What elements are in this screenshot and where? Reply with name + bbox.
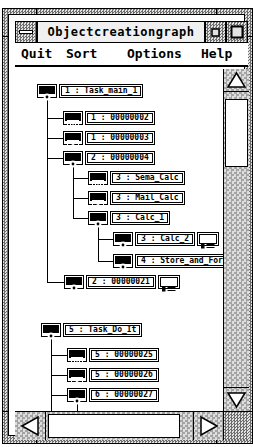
- task-icon: [37, 84, 57, 98]
- scroll-down-button[interactable]: [224, 387, 249, 412]
- node-label: 3 : Mail_Calc: [112, 193, 183, 203]
- tree-node-calc-2[interactable]: 3 : Calc_2: [113, 232, 219, 246]
- tree-connector: [98, 225, 99, 261]
- tree-node-00000027[interactable]: 6 : 00000027: [67, 388, 159, 402]
- tree-node-mail-calc[interactable]: 3 : Mail_Calc: [88, 191, 185, 205]
- node-label-box: 5 : Task_Do_It: [63, 323, 142, 337]
- node-label-box: 5 : 00000026: [89, 368, 159, 382]
- tree-connector: [73, 198, 88, 199]
- task-icon: [63, 151, 83, 165]
- node-label: 1 : 00000002: [87, 113, 153, 123]
- graph-viewport: 1 : Task_main_1 1 : 00000002 1 : 0000000…: [15, 69, 223, 411]
- tree-connector: [73, 218, 88, 219]
- tree-connector: [51, 355, 67, 356]
- menu-quit[interactable]: Quit: [21, 46, 52, 61]
- node-label-box: 3 : Calc_2: [135, 232, 195, 246]
- semaphore-icon: [63, 111, 83, 125]
- node-label-box: 2 : 00000021: [86, 275, 156, 289]
- app-window: Objectcreationgraph Quit Sort Options He…: [2, 8, 253, 444]
- tree-node-calc-1[interactable]: 3 : Calc_1: [88, 211, 170, 225]
- menu-bar: Quit Sort Options Help: [15, 43, 248, 67]
- node-label: 1 : Task_main_1: [61, 86, 141, 96]
- node-label-box: 4 : Store_and_Forwa: [135, 254, 223, 268]
- node-label: 4 : Store_and_Forwa: [137, 256, 223, 266]
- task-icon: [113, 254, 133, 268]
- scroll-right-button[interactable]: [193, 412, 224, 440]
- screen: Objectcreationgraph Quit Sort Options He…: [0, 0, 253, 447]
- minimize-button[interactable]: [205, 21, 226, 43]
- maximize-button[interactable]: [226, 21, 248, 43]
- tree-node-00000002[interactable]: 1 : 00000002: [63, 111, 155, 125]
- node-label-box: 1 : 00000003: [85, 131, 155, 145]
- tree-connector: [47, 282, 64, 283]
- window-inner-frame: Objectcreationgraph Quit Sort Options He…: [8, 14, 245, 436]
- horizontal-scrollbar[interactable]: [15, 411, 223, 440]
- tree-node-00000021[interactable]: 2 : 00000021: [64, 275, 180, 289]
- node-label: 5 : 00000026: [91, 370, 157, 380]
- task-icon: [64, 275, 84, 289]
- tree-node-00000004[interactable]: 2 : 00000004: [63, 151, 155, 165]
- tree-node-sema-calc[interactable]: 3 : Sema_Calc: [88, 171, 185, 185]
- node-label: 5 : 00000025: [91, 350, 157, 360]
- node-label: 2 : 00000021: [88, 277, 154, 287]
- window-title: Objectcreationgraph: [48, 25, 195, 39]
- detail-list-icon[interactable]: [197, 232, 219, 246]
- scroll-left-icon: [20, 415, 40, 437]
- menu-help[interactable]: Help: [201, 46, 232, 61]
- tree-connector: [47, 158, 63, 159]
- window-menu-icon: [19, 29, 33, 35]
- tree-connector: [51, 337, 52, 411]
- tree-connector: [98, 261, 113, 262]
- node-label-box: 1 : 00000002: [85, 111, 155, 125]
- node-label: 1 : 00000003: [87, 133, 153, 143]
- menu-sort[interactable]: Sort: [66, 46, 97, 61]
- mail-icon: [67, 368, 87, 382]
- task-icon: [41, 323, 61, 337]
- tree-node-00000026[interactable]: 5 : 00000026: [67, 368, 159, 382]
- node-label-box: 6 : 00000027: [89, 388, 159, 402]
- node-label-box: 3 : Mail_Calc: [110, 191, 185, 205]
- semaphore-icon: [67, 348, 87, 362]
- vertical-scrollbar[interactable]: [223, 69, 249, 411]
- node-label-box: 3 : Calc_1: [110, 211, 170, 225]
- scroll-down-icon: [226, 391, 247, 409]
- semaphore-icon: [88, 171, 108, 185]
- task-icon: [88, 211, 108, 225]
- window-menu-button[interactable]: [15, 21, 37, 43]
- tree-node-00000025[interactable]: 5 : 00000025: [67, 348, 159, 362]
- horizontal-scroll-thumb[interactable]: [48, 414, 180, 438]
- scroll-up-button[interactable]: [224, 69, 249, 92]
- node-label-box: 3 : Sema_Calc: [110, 171, 185, 185]
- detail-list-icon[interactable]: [158, 275, 180, 289]
- node-label: 3 : Calc_1: [112, 213, 168, 223]
- node-label: 3 : Sema_Calc: [112, 173, 183, 183]
- tree-node-task-do-it[interactable]: 5 : Task_Do_It: [41, 323, 142, 337]
- tree-connector: [47, 138, 63, 139]
- node-label: 3 : Calc_2: [137, 234, 193, 244]
- tree-node-00000003[interactable]: 1 : 00000003: [63, 131, 155, 145]
- node-label-box: 1 : Task_main_1: [59, 84, 143, 98]
- scroll-right-icon: [199, 415, 219, 437]
- tree-node-task-main-1[interactable]: 1 : Task_main_1: [37, 84, 143, 98]
- tree-connector: [51, 395, 67, 396]
- vertical-scroll-thumb[interactable]: [225, 99, 248, 167]
- menu-options[interactable]: Options: [127, 46, 182, 61]
- node-label: 5 : Task_Do_It: [65, 325, 140, 335]
- maximize-icon: [230, 25, 244, 39]
- node-label-box: 5 : 00000025: [89, 348, 159, 362]
- resize-corner[interactable]: [223, 411, 249, 440]
- task-icon: [67, 388, 87, 402]
- mail-icon: [63, 131, 83, 145]
- node-label: 6 : 00000027: [91, 390, 157, 400]
- tree-connector: [47, 98, 48, 282]
- scroll-up-icon: [226, 71, 247, 89]
- tree-connector: [51, 375, 67, 376]
- mail-icon: [88, 191, 108, 205]
- scroll-left-button[interactable]: [15, 412, 46, 440]
- title-bar[interactable]: Objectcreationgraph: [37, 21, 205, 43]
- node-label: 2 : 00000004: [87, 153, 153, 163]
- tree-connector: [73, 178, 88, 179]
- minimize-icon: [211, 28, 220, 37]
- tree-node-store-and-forward[interactable]: 4 : Store_and_Forwa: [113, 254, 223, 268]
- node-label-box: 2 : 00000004: [85, 151, 155, 165]
